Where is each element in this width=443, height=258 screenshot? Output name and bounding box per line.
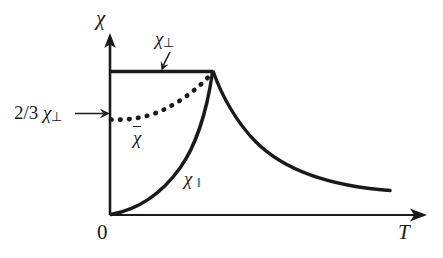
two-thirds-fraction: 2/3	[14, 102, 38, 123]
y-axis	[104, 33, 116, 215]
two-thirds-chi-subscript: ⊥	[51, 109, 62, 124]
chi-parallel-symbol: χ	[184, 168, 192, 189]
chi-perpendicular-label: χ⊥	[155, 29, 174, 49]
origin-label: 0	[97, 222, 108, 243]
chi-perp-pointer-arrow	[161, 52, 170, 71]
y-axis-label: χ	[96, 8, 105, 29]
chi-average-label: χ	[133, 126, 141, 147]
two-thirds-chi-perp-pointer-arrow	[75, 109, 110, 119]
x-axis	[110, 208, 427, 221]
curve-chi-average	[111, 73, 212, 120]
chi-parallel-label: χ ‖	[184, 169, 201, 189]
plot-canvas	[0, 0, 443, 258]
two-thirds-chi-perpendicular-label: 2/3 χ⊥	[14, 103, 62, 123]
curve-chi-parallel	[111, 73, 212, 215]
curve-curie-weiss-tail	[213, 72, 390, 191]
chi-perpendicular-subscript: ⊥	[163, 35, 174, 50]
x-axis-label: T	[398, 222, 410, 243]
chi-parallel-subscript: ‖	[197, 175, 201, 190]
susceptibility-vs-temperature-figure: χ T 0 χ⊥ 2/3 χ⊥ χ χ ‖	[0, 0, 443, 258]
chi-average-symbol: χ	[133, 126, 141, 147]
